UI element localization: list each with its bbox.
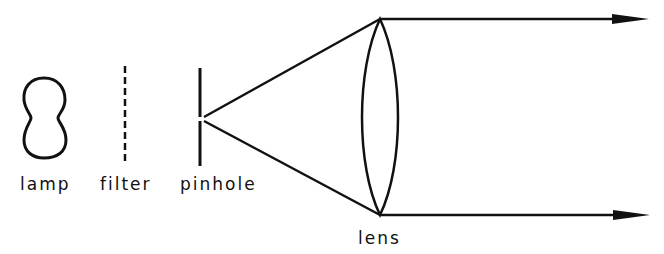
lens-label: lens (358, 230, 401, 247)
optical-diagram (0, 0, 664, 254)
filter-label: filter (100, 176, 152, 193)
ray-lower-converging (204, 121, 380, 215)
lamp-shape (24, 78, 66, 158)
pinhole-label: pinhole (180, 176, 257, 193)
lamp-label: lamp (20, 176, 71, 193)
arrowhead-lower-icon (613, 210, 650, 220)
lens-shape (362, 19, 398, 215)
ray-upper-converging (204, 19, 380, 117)
arrowhead-upper-icon (612, 14, 649, 24)
